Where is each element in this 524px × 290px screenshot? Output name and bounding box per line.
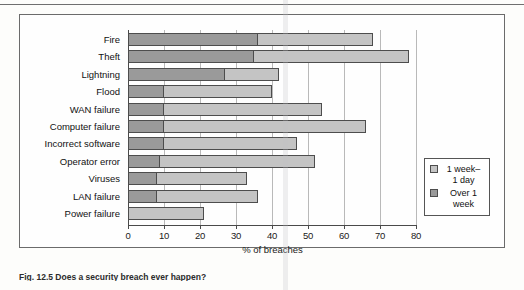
bar-segment-over-one-week — [128, 190, 157, 203]
x-tick-label-70: 70 — [365, 230, 395, 241]
bar-segment-over-one-week — [128, 103, 164, 116]
category-label-operator-error: Operator error — [2, 156, 120, 167]
bar-segment-one-week-one-day — [128, 207, 204, 220]
bar-row — [128, 190, 417, 203]
bar-segment-over-one-week — [128, 50, 254, 63]
category-label-computer-failure: Computer failure — [2, 121, 120, 132]
x-tick-label-40: 40 — [257, 230, 287, 241]
bar-row — [128, 207, 417, 220]
bar-segment-one-week-one-day — [156, 172, 247, 185]
tick-50 — [308, 225, 309, 229]
tick-40 — [272, 225, 273, 229]
plot-area — [128, 30, 416, 226]
category-label-power-failure: Power failure — [2, 208, 120, 219]
category-label-theft: Theft — [2, 51, 120, 62]
legend-item-one-week-one-day: 1 week–1 day — [430, 164, 485, 185]
tick-10 — [164, 225, 165, 229]
category-label-lan-failure: LAN failure — [2, 191, 120, 202]
bar-segment-one-week-one-day — [163, 120, 366, 133]
tick-70 — [380, 225, 381, 229]
bar-segment-one-week-one-day — [224, 68, 279, 81]
category-label-viruses: Viruses — [2, 173, 120, 184]
bar-segment-one-week-one-day — [156, 190, 258, 203]
legend-item-over-one-week: Over 1week — [430, 188, 485, 209]
category-label-flood: Flood — [2, 86, 120, 97]
legend-label-one-week-one-day: 1 week–1 day — [442, 164, 485, 185]
legend-swatch-over-one-week — [430, 189, 438, 197]
bar-segment-one-week-one-day — [163, 85, 272, 98]
bar-segment-over-one-week — [128, 155, 160, 168]
bar-row — [128, 137, 417, 150]
legend-swatch-one-week-one-day — [430, 165, 438, 173]
category-label-wan-failure: WAN failure — [2, 104, 120, 115]
legend-label-over-one-week: Over 1week — [442, 188, 485, 209]
bar-segment-over-one-week — [128, 33, 258, 46]
bar-row — [128, 172, 417, 185]
x-tick-label-20: 20 — [185, 230, 215, 241]
bar-row — [128, 103, 417, 116]
tick-60 — [344, 225, 345, 229]
category-label-fire: Fire — [2, 34, 120, 45]
bar-row — [128, 155, 417, 168]
bar-row — [128, 85, 417, 98]
bar-row — [128, 33, 417, 46]
x-tick-label-10: 10 — [149, 230, 179, 241]
bar-segment-one-week-one-day — [257, 33, 373, 46]
bar-segment-one-week-one-day — [163, 103, 322, 116]
x-tick-label-80: 80 — [401, 230, 431, 241]
bar-segment-over-one-week — [128, 137, 164, 150]
bar-segment-over-one-week — [128, 172, 157, 185]
bar-segment-one-week-one-day — [163, 137, 297, 150]
bar-row — [128, 120, 417, 133]
x-tick-label-50: 50 — [293, 230, 323, 241]
x-tick-label-0: 0 — [113, 230, 143, 241]
tick-0 — [128, 225, 129, 229]
category-label-lightning: Lightning — [2, 69, 120, 80]
x-tick-label-30: 30 — [221, 230, 251, 241]
bar-segment-one-week-one-day — [253, 50, 409, 63]
figure-page: FireTheftLightningFloodWAN failureComput… — [0, 0, 524, 290]
tick-20 — [200, 225, 201, 229]
category-label-incorrect-software: Incorrect software — [2, 138, 120, 149]
tick-80 — [416, 225, 417, 229]
chart-legend: 1 week–1 day Over 1week — [424, 158, 490, 216]
bar-segment-over-one-week — [128, 120, 164, 133]
bar-row — [128, 50, 417, 63]
bar-segment-one-week-one-day — [159, 155, 315, 168]
x-tick-label-60: 60 — [329, 230, 359, 241]
figure-caption: Fig. 12.5 Does a security breach ever ha… — [19, 272, 219, 281]
bar-segment-over-one-week — [128, 68, 225, 81]
bar-row — [128, 68, 417, 81]
tick-30 — [236, 225, 237, 229]
bar-segment-over-one-week — [128, 85, 164, 98]
x-axis-label: % of breaches — [128, 244, 417, 255]
top-divider-rule — [0, 4, 524, 5]
